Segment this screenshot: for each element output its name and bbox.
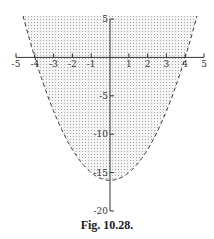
x-tick-label: 1 xyxy=(126,59,132,69)
y-tick-label: -15 xyxy=(94,168,109,178)
x-tick-label: -3 xyxy=(49,59,58,69)
x-tick-label: 4 xyxy=(182,59,188,69)
x-tick-label: 5 xyxy=(201,59,207,69)
parabola-region-plot: -5-4-3-2-112345 5-5-10-15-20 xyxy=(0,0,214,239)
x-tick-label: 2 xyxy=(145,59,151,69)
y-tick-label: -20 xyxy=(94,206,109,216)
figure-caption: Fig. 10.28. xyxy=(0,218,214,233)
x-tick-label: -5 xyxy=(12,59,21,69)
x-tick-label: 3 xyxy=(164,59,170,69)
x-tick-label: -2 xyxy=(68,59,77,69)
y-tick-label: -5 xyxy=(99,91,108,101)
x-tick-label: -4 xyxy=(30,59,39,69)
y-tick-label: 5 xyxy=(102,14,108,24)
y-tick-label: -10 xyxy=(94,129,109,139)
x-tick-label: -1 xyxy=(87,59,96,69)
